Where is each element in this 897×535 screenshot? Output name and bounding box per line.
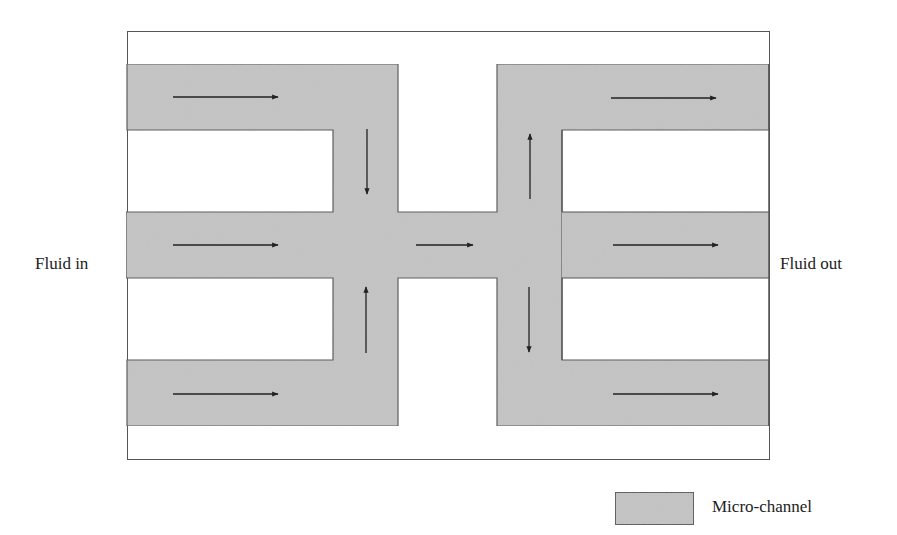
outlet-label: Fluid out — [780, 254, 842, 274]
microchannel-diagram — [0, 0, 897, 535]
legend-swatch — [616, 493, 694, 525]
legend-label: Micro-channel — [712, 497, 812, 517]
inlet-label: Fluid in — [35, 254, 88, 274]
